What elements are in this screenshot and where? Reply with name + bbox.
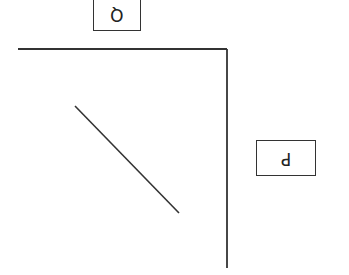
p-label: P (281, 150, 291, 167)
diagram-svg (0, 0, 349, 275)
q-label-box: Q (93, 0, 141, 31)
diagram-canvas: Q P (0, 0, 349, 275)
diagonal-line (75, 106, 179, 213)
q-label: Q (110, 6, 123, 23)
p-label-box: P (256, 140, 316, 176)
